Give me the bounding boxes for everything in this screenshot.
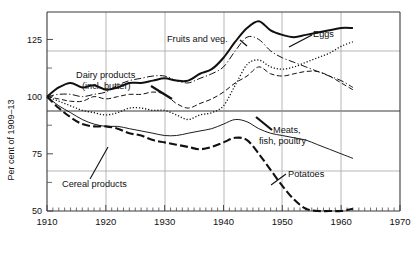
x-tick-label: 1910 [36, 216, 57, 227]
potatoes-leader [271, 174, 286, 185]
y-tick-label: 125 [27, 35, 42, 45]
y-tick-label: 100 [27, 92, 42, 102]
y-axis-title: Per cent of 1909–13 [6, 99, 16, 180]
y-tick-label: 50 [32, 206, 42, 216]
y-axis-tick-labels: 5075100125 [27, 35, 42, 217]
cereal-products-label: Cereal products [62, 179, 127, 189]
meats-label-line2: fish, poultry [259, 136, 306, 146]
consumption-index-chart: 1910192019301940195019601970 5075100125 … [0, 0, 420, 255]
x-axis-tick-labels: 1910192019301940195019601970 [36, 216, 410, 227]
x-tick-label: 1940 [213, 216, 234, 227]
series-annotations: Fruits and veg. Dairy products (incl. bu… [62, 29, 334, 189]
x-tick-label: 1970 [389, 216, 410, 227]
potatoes-label: Potatoes [288, 169, 325, 179]
x-tick-label: 1930 [154, 216, 175, 227]
dairy-products-label-line1: Dairy products [76, 70, 136, 80]
cereal-leader [90, 147, 108, 179]
meats-label-line1: Meats, [273, 125, 301, 135]
fruits-leader [240, 40, 247, 46]
fruits-and-veg-label: Fruits and veg. [167, 34, 228, 44]
series-line-potatoes [47, 97, 353, 212]
eggs-label: Eggs [313, 29, 334, 39]
dairy-products-label-line2: (incl. butter) [82, 81, 131, 91]
y-axis-ticks [47, 39, 53, 211]
x-tick-label: 1960 [331, 216, 352, 227]
x-tick-label: 1950 [272, 216, 293, 227]
x-tick-label: 1920 [95, 216, 116, 227]
series-line-cereal-products [47, 97, 353, 159]
y-tick-label: 75 [32, 149, 42, 159]
